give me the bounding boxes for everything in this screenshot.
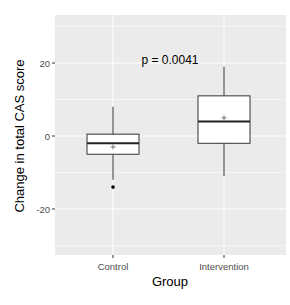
boxplot-chart: -20020 ControlIntervention p = 0.0041 Gr… bbox=[0, 0, 290, 305]
x-tick-label: Intervention bbox=[199, 261, 249, 272]
chart-svg: -20020 ControlIntervention p = 0.0041 Gr… bbox=[0, 0, 290, 305]
y-tick-label: -20 bbox=[36, 204, 50, 215]
y-tick-label: 20 bbox=[39, 58, 50, 69]
y-axis-title: Change in total CAS score bbox=[12, 59, 27, 212]
y-tick-label: 0 bbox=[45, 131, 50, 142]
y-axis: -20020 bbox=[36, 58, 55, 215]
x-tick-label: Control bbox=[98, 261, 129, 272]
outlier-point bbox=[111, 185, 115, 189]
x-axis: ControlIntervention bbox=[98, 255, 249, 272]
x-axis-title: Group bbox=[152, 274, 188, 289]
p-value-annotation: p = 0.0041 bbox=[141, 53, 198, 67]
